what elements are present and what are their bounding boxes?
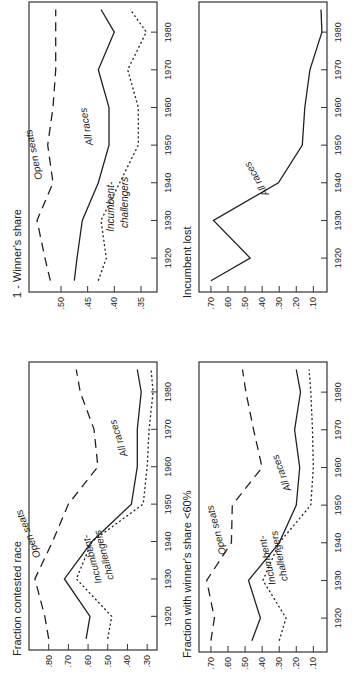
x-tick-label: 1980 [163, 22, 173, 42]
series-all-races [211, 10, 322, 281]
y-tick-label: .30 [142, 655, 152, 668]
x-tick-label: 1960 [333, 457, 343, 477]
x-tick-label: 1940 [333, 533, 343, 553]
y-tick-label: .40 [109, 297, 119, 310]
series-annotation: Open seats [204, 504, 228, 556]
x-tick-label: 1920 [333, 608, 343, 628]
panel-1: Fraction contested race.80.70.60.50.40.3… [11, 362, 173, 668]
panel-2: 1 - Winner's share.50.45.40.351920193019… [11, 2, 173, 310]
x-tick-label: 1920 [163, 606, 173, 626]
y-tick-label: .35 [136, 297, 146, 310]
panel-4: Incumbent lost.70.60.50.40.30.20.1019201… [181, 2, 343, 310]
chart-grid: Fraction contested race.80.70.60.50.40.3… [0, 0, 357, 686]
x-tick-label: 1930 [163, 210, 173, 230]
panel-3: Fraction with winner's share <60%.70.60.… [181, 362, 343, 670]
y-tick-label: .70 [206, 297, 216, 310]
panel-title: 1 - Winner's share [11, 209, 23, 298]
y-tick-label: .50 [56, 297, 66, 310]
x-tick-label: 1920 [333, 248, 343, 268]
y-tick-label: .50 [240, 657, 250, 670]
y-tick-label: .20 [291, 657, 301, 670]
series-annotation: All races [270, 453, 294, 494]
x-tick-label: 1930 [163, 569, 173, 589]
series-incumbent-challengers [263, 370, 313, 641]
x-tick-label: 1920 [163, 248, 173, 268]
series-annotation: All races [107, 418, 130, 459]
y-tick-label: .10 [308, 657, 318, 670]
series-incumbent-challengers [98, 10, 146, 281]
series-annotation: Open seats [23, 129, 44, 181]
y-tick-label: .60 [223, 297, 233, 310]
chart-stage: Fraction contested race.80.70.60.50.40.3… [0, 0, 357, 686]
x-tick-label: 1950 [163, 494, 173, 514]
y-tick-label: .30 [274, 297, 284, 310]
x-tick-label: 1980 [163, 382, 173, 402]
series-annotation: All races [242, 160, 271, 200]
x-tick-label: 1980 [333, 382, 343, 402]
series-all-races [64, 370, 141, 639]
y-tick-label: .40 [257, 657, 267, 670]
series-annotation: All races [77, 107, 95, 148]
panel-title: Incumbent lost [181, 226, 193, 298]
y-tick-label: .10 [308, 297, 318, 310]
series-annotation: Incumbent- [105, 181, 116, 232]
y-tick-label: .60 [223, 657, 233, 670]
plot-frame [29, 362, 157, 650]
x-tick-label: 1970 [333, 420, 343, 440]
panel-title: Fraction with winner's share <60% [181, 490, 193, 658]
x-tick-label: 1950 [333, 135, 343, 155]
y-tick-label: .40 [257, 297, 267, 310]
y-tick-label: .40 [122, 655, 132, 668]
x-tick-label: 1980 [333, 22, 343, 42]
x-tick-label: 1930 [333, 570, 343, 590]
y-tick-label: .80 [44, 655, 54, 668]
x-tick-label: 1950 [333, 495, 343, 515]
series-open-seats [37, 10, 56, 281]
x-tick-label: 1940 [333, 173, 343, 193]
panel-title: Fraction contested race [11, 541, 23, 656]
y-tick-label: .70 [63, 655, 73, 668]
plot-frame [199, 362, 327, 652]
x-tick-label: 1940 [163, 173, 173, 193]
x-tick-label: 1960 [163, 97, 173, 117]
series-incumbent-challengers [76, 370, 153, 639]
plot-frame [199, 2, 327, 292]
series-annotation: challengers [119, 177, 130, 228]
x-tick-label: 1930 [333, 210, 343, 230]
y-tick-label: .70 [206, 657, 216, 670]
x-tick-label: 1950 [163, 135, 173, 155]
y-tick-label: .60 [83, 655, 93, 668]
y-tick-label: .50 [103, 655, 113, 668]
x-tick-label: 1960 [163, 457, 173, 477]
y-tick-label: .30 [274, 657, 284, 670]
x-tick-label: 1970 [333, 60, 343, 80]
x-tick-label: 1940 [163, 532, 173, 552]
y-tick-label: .20 [291, 297, 301, 310]
series-open-seats [35, 370, 98, 639]
x-tick-label: 1960 [333, 97, 343, 117]
x-tick-label: 1970 [163, 419, 173, 439]
x-tick-label: 1970 [163, 60, 173, 80]
y-tick-label: .50 [240, 297, 250, 310]
y-tick-label: .45 [83, 297, 93, 310]
